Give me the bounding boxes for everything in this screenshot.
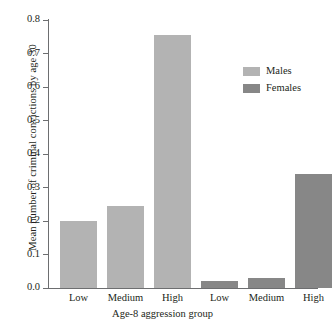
bar-females-high <box>295 174 332 288</box>
legend-label-males: Males <box>266 66 292 77</box>
bar-males-low <box>60 221 97 288</box>
legend-swatch-males-icon <box>243 67 260 76</box>
y-axis-tick-label: 0.0 <box>0 282 40 293</box>
y-axis-tick-label: 0.4 <box>0 148 40 159</box>
x-axis-line <box>48 288 318 289</box>
bar-females-low <box>201 281 238 288</box>
y-axis-tick-label: 0.8 <box>0 14 40 25</box>
y-axis-tick-label: 0.6 <box>0 81 40 92</box>
x-axis-label-females-high: High <box>285 292 336 303</box>
y-axis-tick-label: 0.7 <box>0 48 40 59</box>
y-axis-tick-label: 0.5 <box>0 115 40 126</box>
legend-swatch-females-icon <box>243 84 260 93</box>
legend-label-females: Females <box>266 83 301 94</box>
bars-layer <box>49 20 318 288</box>
y-axis-tick-label: 0.2 <box>0 215 40 226</box>
x-axis-title: Age-8 aggression group <box>0 308 325 319</box>
bar-males-high <box>154 35 191 288</box>
bar-females-medium <box>248 278 285 288</box>
bar-males-medium <box>107 206 144 288</box>
legend-item-females: Females <box>243 81 301 96</box>
y-axis-tick-label: 0.1 <box>0 249 40 260</box>
y-axis-tick-label: 0.3 <box>0 182 40 193</box>
legend-item-males: Males <box>243 64 301 79</box>
chart-legend: Males Females <box>243 64 301 98</box>
